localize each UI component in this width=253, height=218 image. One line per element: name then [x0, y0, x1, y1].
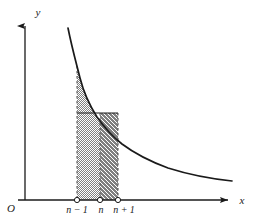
tick-label-n-minus-1: n − 1	[66, 204, 88, 215]
x-axis-label: x	[239, 194, 245, 206]
y-axis-label: y	[35, 6, 41, 18]
tick-marker-n[interactable]	[97, 197, 102, 202]
figure-canvas: y x O n − 1 n n + 1	[0, 0, 253, 218]
figure-container: y x O n − 1 n n + 1	[0, 0, 253, 218]
tick-label-n: n	[99, 204, 104, 215]
origin-label: O	[7, 202, 15, 214]
tick-marker-n-plus-1[interactable]	[115, 197, 120, 202]
right-crosshatched-region	[98, 111, 120, 202]
tick-marker-n-minus-1[interactable]	[74, 197, 79, 202]
figure-background	[0, 0, 253, 218]
tick-label-n-plus-1: n + 1	[113, 204, 135, 215]
